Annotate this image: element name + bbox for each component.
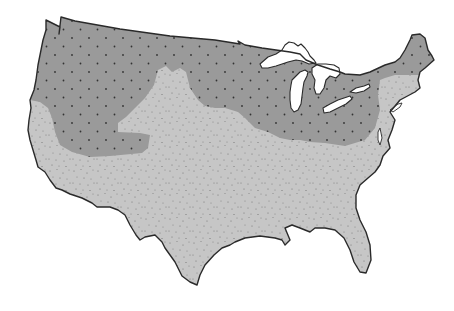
us-map-svg xyxy=(0,0,454,311)
us-map xyxy=(0,0,454,311)
